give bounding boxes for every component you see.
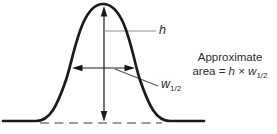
half-width-label: w1/2 — [161, 78, 181, 91]
half-width-arrow-head-left-icon — [72, 65, 83, 71]
half-width-subscript: 1/2 — [170, 84, 181, 93]
area-equation-times: × — [235, 65, 248, 77]
area-annotation-line1: Approximate — [184, 50, 276, 64]
area-annotation-line2: area = h × w1/2 — [184, 64, 276, 78]
half-width-symbol: w — [161, 77, 170, 91]
area-equation-w-subscript: 1/2 — [256, 71, 267, 80]
peak-area-diagram: h w1/2 Approximate area = h × w1/2 — [0, 0, 277, 134]
area-annotation: Approximate area = h × w1/2 — [184, 50, 276, 78]
height-arrow-head-up-icon — [101, 6, 108, 17]
height-arrow-head-down-icon — [101, 111, 108, 122]
height-label: h — [159, 24, 166, 37]
half-width-arrow-head-right-icon — [125, 65, 136, 71]
area-equation-prefix: area = — [192, 65, 228, 77]
